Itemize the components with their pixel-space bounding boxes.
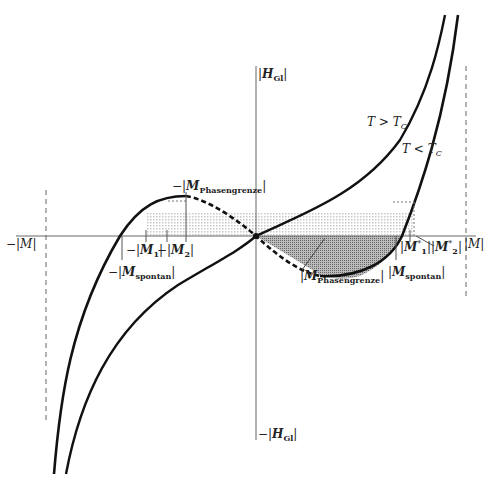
y-axis-neg-label: −|HGl| xyxy=(258,428,297,442)
label-pos-spontan: |Mspontan| xyxy=(388,266,445,280)
label-pos-m2: |M*2| xyxy=(431,240,462,255)
label-neg-phasengrenze: −|MPhasengrenze| xyxy=(172,180,266,194)
label-pos-m1: |M*1| xyxy=(400,240,431,255)
label-neg-spontan: −|Mspontan| xyxy=(108,266,175,280)
y-axis-pos-label: |HGl| xyxy=(258,68,287,82)
label-neg-m2: −|M2| xyxy=(157,244,194,258)
curve-t-below-tc-left xyxy=(54,196,186,474)
curve-label-below: T < TC xyxy=(402,143,442,158)
label-pos-phasengrenze: |MPhasengrenze| xyxy=(300,270,384,284)
x-axis-neg-label: −|M| xyxy=(6,238,36,250)
x-axis-pos-label: |M| xyxy=(464,238,484,250)
origin-point xyxy=(253,233,259,239)
curve-label-above: T > TC xyxy=(367,116,407,131)
